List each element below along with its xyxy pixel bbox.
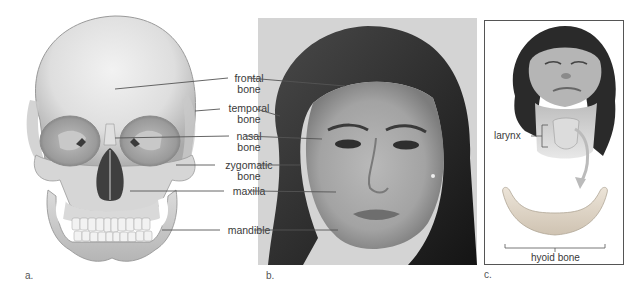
larynx-cartilage — [553, 118, 579, 149]
panel-label-c: c. — [484, 269, 492, 280]
hyoid-bone-label: hyoid bone — [531, 252, 580, 263]
larynx-label: larynx — [494, 130, 521, 141]
hyoid-bone-shape — [503, 187, 608, 235]
hyoid-panel: larynx hyoid bone — [484, 20, 624, 265]
neck-and-hyoid-illustration — [485, 21, 624, 265]
